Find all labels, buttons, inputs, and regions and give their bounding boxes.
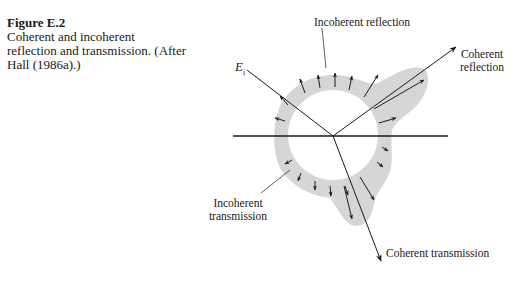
incoherent-reflection-leader	[322, 28, 326, 68]
coherent-reflection-label: Coherent reflection	[452, 48, 512, 74]
incoherent-transmission-leader	[261, 170, 290, 193]
incoherent-reflection-label: Incoherent reflection	[314, 16, 410, 29]
incident-field-label: Ei	[235, 59, 245, 77]
coherent-transmission-label: Coherent transmission	[386, 247, 489, 260]
scattering-diagram	[0, 0, 526, 284]
incoherent-transmission-label: Incoherent transmission	[203, 197, 273, 223]
